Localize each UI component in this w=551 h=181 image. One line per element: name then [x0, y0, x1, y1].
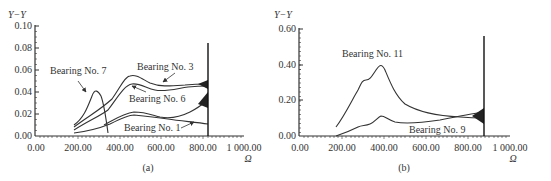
svg-text:800.00: 800.00	[454, 142, 482, 153]
y-axis-label-b: Y−Y	[274, 9, 293, 20]
svg-text:600.00: 600.00	[147, 142, 175, 153]
series-bearing-11	[336, 66, 484, 128]
svg-text:200.00: 200.00	[64, 142, 92, 153]
x-tick-labels-b: 0.00 200.00 400.00 600.00 800.00 1 000.0…	[291, 142, 527, 153]
x-tick-labels-a: 0.00 200.00 400.00 600.00 800.00 1 000.0…	[27, 142, 261, 153]
svg-text:0.00: 0.00	[279, 130, 297, 141]
arrow-bearing-1	[181, 122, 194, 128]
svg-text:0.02: 0.02	[15, 108, 33, 119]
svg-text:0.20: 0.20	[279, 94, 297, 105]
noise-band-a2	[198, 92, 208, 108]
noise-band-a1	[198, 80, 208, 89]
chart-b: Y−Y 0.60 0.40 0.20 0.00 0.00 200.00 400.…	[274, 9, 528, 174]
y-tick-labels-b: 0.60 0.40 0.20 0.00	[279, 23, 297, 141]
annotation-bearing-9: Bearing No. 9	[409, 124, 465, 135]
x-axis-label-a: Ω	[244, 153, 251, 164]
svg-text:1 000.00: 1 000.00	[227, 142, 262, 153]
noise-band-b	[472, 108, 484, 124]
chart-a: Y−Y 0.10 0.08 0.06 0.04 0.02 0.00	[8, 9, 262, 174]
y-tick-labels-a: 0.10 0.08 0.06 0.04 0.02 0.00	[15, 20, 33, 141]
svg-text:0.10: 0.10	[15, 20, 33, 31]
arrow-bearing-6	[132, 86, 146, 92]
svg-text:0.06: 0.06	[15, 64, 33, 75]
annotation-bearing-11: Bearing No. 11	[342, 48, 403, 59]
annotation-bearing-7: Bearing No. 7	[50, 65, 106, 76]
arrow-bearing-7	[78, 81, 86, 92]
annotation-bearing-1: Bearing No. 1	[124, 122, 180, 133]
annotation-bearing-3: Bearing No. 3	[137, 61, 193, 72]
svg-text:0.00: 0.00	[291, 142, 309, 153]
figure: Y−Y 0.10 0.08 0.06 0.04 0.02 0.00	[0, 0, 551, 181]
annotation-bearing-6: Bearing No. 6	[129, 93, 185, 104]
svg-text:0.08: 0.08	[15, 42, 33, 53]
x-axis-label-b: Ω	[509, 153, 516, 164]
svg-text:0.40: 0.40	[279, 59, 297, 70]
svg-text:0.04: 0.04	[15, 86, 33, 97]
svg-text:600.00: 600.00	[412, 142, 440, 153]
svg-text:0.00: 0.00	[27, 142, 45, 153]
svg-text:200.00: 200.00	[328, 142, 356, 153]
y-axis-label-a: Y−Y	[8, 9, 27, 20]
svg-text:400.00: 400.00	[370, 142, 398, 153]
svg-text:0.00: 0.00	[15, 130, 33, 141]
svg-text:800.00: 800.00	[189, 142, 217, 153]
panel-label-b: (b)	[398, 162, 410, 174]
svg-text:400.00: 400.00	[106, 142, 134, 153]
arrow-bearing-3	[163, 73, 175, 82]
panel-label-a: (a)	[142, 162, 153, 174]
svg-text:0.60: 0.60	[279, 23, 297, 34]
svg-text:1 000.00: 1 000.00	[493, 142, 528, 153]
